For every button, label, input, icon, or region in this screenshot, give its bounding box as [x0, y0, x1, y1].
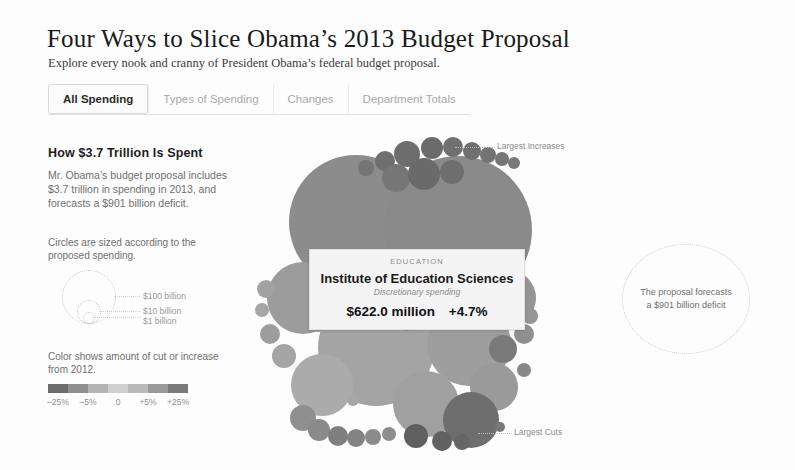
tab-changes[interactable]: Changes [273, 84, 348, 114]
tooltip-department: EDUCATION [320, 257, 514, 266]
bubble[interactable] [517, 363, 531, 377]
view-tabs[interactable]: All SpendingTypes of SpendingChangesDepa… [48, 84, 470, 115]
largest-cuts-leader [478, 433, 512, 434]
tab-types-of-spending[interactable]: Types of Spending [148, 84, 272, 114]
deficit-note-line1: The proposal forecasts [640, 287, 732, 297]
tooltip-change: +4.7% [449, 304, 488, 319]
bubble[interactable] [347, 394, 359, 406]
bubble[interactable] [440, 160, 464, 184]
bubble[interactable] [408, 158, 440, 190]
largest-cuts-label: Largest Cuts [514, 427, 562, 437]
size-key-label-1b: $1 billion [143, 316, 177, 326]
size-key-label-10b: $10 billion [143, 306, 181, 316]
color-ramp-swatch-6 [168, 384, 188, 393]
bubble-tooltip: EDUCATION Institute of Education Science… [309, 249, 525, 330]
bubble[interactable] [347, 429, 365, 447]
bubble[interactable] [463, 142, 481, 160]
size-key-leader-10b [99, 311, 140, 312]
page-subtitle: Explore every nook and cranny of Preside… [48, 56, 440, 71]
color-legend-caption: Color shows amount of cut or increase fr… [48, 350, 238, 376]
bubble[interactable] [495, 152, 509, 166]
bubble[interactable] [272, 344, 296, 368]
tooltip-amount: $622.0 million [347, 304, 436, 319]
color-ramp-swatch-4 [128, 384, 148, 393]
color-ramp-tick-3: +5% [139, 397, 156, 407]
summary-panel: How $3.7 Trillion Is Spent Mr. Obama’s b… [48, 146, 230, 210]
summary-description: Mr. Obama’s budget proposal includes $3.… [48, 168, 230, 210]
color-ramp-swatch-1 [68, 384, 88, 393]
color-ramp-tick-2: 0 [116, 397, 121, 407]
summary-title: How $3.7 Trillion Is Spent [48, 146, 230, 160]
bubble[interactable] [255, 303, 269, 317]
largest-increases-leader [455, 147, 495, 148]
size-key-leader-1b [93, 317, 140, 318]
bubble[interactable] [495, 422, 505, 432]
color-ramp-swatch-3 [108, 384, 128, 393]
bubble[interactable] [404, 424, 428, 448]
tooltip-spending-type: Discretionary spending [320, 287, 514, 297]
page-title: Four Ways to Slice Obama’s 2013 Budget P… [47, 25, 570, 53]
bubble[interactable] [257, 280, 275, 298]
color-ramp-tick-0: –25% [47, 397, 69, 407]
bubble[interactable] [508, 157, 520, 169]
bubble[interactable] [358, 160, 374, 176]
bubble[interactable] [328, 426, 348, 446]
tooltip-program: Institute of Education Sciences [320, 271, 514, 286]
color-ramp-swatch-2 [88, 384, 108, 393]
bubble[interactable] [365, 429, 381, 445]
size-legend-circles: $100 billion $10 billion $1 billion [48, 268, 238, 340]
size-key-leader-100b [114, 296, 140, 297]
size-legend: Circles are sized according to the propo… [48, 236, 238, 340]
color-ramp-swatch-0 [48, 384, 68, 393]
largest-increases-label: Largest Increases [497, 141, 565, 151]
bubble[interactable] [421, 137, 443, 159]
tab-department-totals[interactable]: Department Totals [348, 84, 470, 114]
bubble[interactable] [382, 427, 396, 441]
tooltip-figures: $622.0 million +4.7% [320, 304, 514, 319]
bubble[interactable] [489, 335, 517, 363]
size-key-label-100b: $100 billion [143, 291, 186, 301]
deficit-note: The proposal forecasts a $901 billion de… [626, 286, 746, 312]
bubble[interactable] [480, 147, 496, 163]
bubble[interactable] [382, 164, 410, 192]
tab-all-spending[interactable]: All Spending [48, 84, 148, 114]
color-ramp-ticks: –25%–5%0+5%+25% [48, 397, 188, 411]
bubble[interactable] [454, 434, 470, 450]
color-ramp [48, 384, 188, 393]
color-ramp-tick-4: +25% [167, 397, 189, 407]
deficit-circle: The proposal forecasts a $901 billion de… [622, 244, 750, 354]
budget-explorer-page: Four Ways to Slice Obama’s 2013 Budget P… [0, 0, 795, 470]
size-key-circle-1b [83, 312, 95, 324]
color-legend: Color shows amount of cut or increase fr… [48, 350, 238, 411]
bubble[interactable] [308, 419, 330, 441]
size-legend-caption: Circles are sized according to the propo… [48, 236, 238, 262]
deficit-note-line2: a $901 billion deficit [646, 300, 725, 310]
bubble[interactable] [432, 431, 452, 451]
color-ramp-tick-1: –5% [79, 397, 96, 407]
bubble[interactable] [260, 324, 280, 344]
color-ramp-swatch-5 [148, 384, 168, 393]
